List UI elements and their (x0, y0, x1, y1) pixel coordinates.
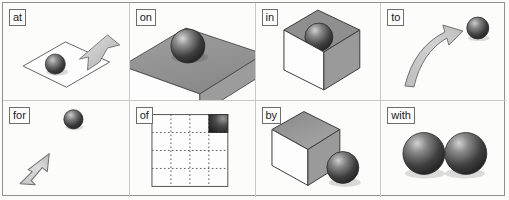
sphere-shadow (172, 51, 208, 63)
panel-label-of: of (136, 107, 153, 124)
sphere (64, 110, 83, 129)
sphere-shadow (328, 178, 360, 187)
panel-label-by: by (262, 107, 282, 124)
panel-label-on: on (136, 9, 156, 26)
highlighted-cell (209, 115, 228, 133)
sphere-shadow (445, 168, 485, 178)
cube-top-face (271, 112, 339, 150)
panel-label-to: to (387, 9, 404, 26)
panel-label-in: in (262, 9, 279, 26)
curved-arrow (405, 25, 463, 87)
sphere (326, 151, 358, 183)
sphere (171, 29, 205, 63)
panel-to[interactable]: to (380, 3, 506, 100)
slab-right-face (200, 54, 255, 100)
panel-with[interactable]: with (380, 100, 506, 197)
arrow (79, 35, 119, 70)
sphere (45, 54, 65, 74)
panel-of[interactable]: of (129, 100, 255, 197)
sphere-shadow (405, 168, 445, 178)
panel-label-at: at (9, 9, 26, 26)
sphere-shadow (46, 69, 68, 76)
arrow (20, 154, 49, 185)
sphere-shadow (468, 35, 490, 41)
panel-on[interactable]: on (129, 3, 255, 100)
plane-shape (23, 42, 110, 87)
cube-front-face (283, 30, 323, 90)
panel-for[interactable]: for (3, 100, 129, 197)
sphere (304, 23, 332, 51)
cube-top-face (283, 10, 359, 52)
slab-top-face (130, 28, 255, 94)
sphere (467, 17, 489, 39)
panel-grid: at (3, 3, 506, 197)
preposition-schema-figure: at (0, 0, 509, 200)
sphere-shadow (65, 125, 83, 130)
grid-lines (152, 115, 228, 187)
panel-label-with: with (387, 107, 415, 124)
cube-front-face (271, 130, 307, 186)
sphere (445, 133, 487, 175)
cube-right-face (307, 130, 339, 186)
panel-at[interactable]: at (3, 3, 129, 100)
grid-outer-square (152, 115, 228, 187)
cube-right-face (323, 30, 359, 90)
panel-label-for: for (9, 107, 30, 124)
panel-by[interactable]: by (255, 100, 381, 197)
slab-front-face (130, 66, 200, 100)
sphere (403, 133, 445, 175)
panel-in[interactable]: in (255, 3, 381, 100)
